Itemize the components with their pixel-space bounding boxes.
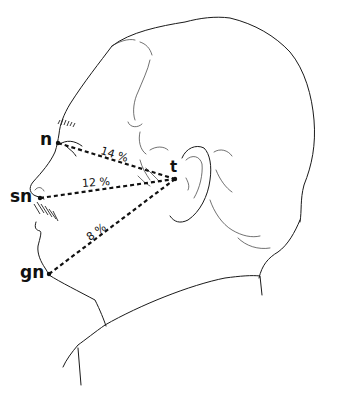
head-profile-illustration	[0, 0, 340, 397]
skull-outline	[112, 17, 315, 222]
landmark-sn-point	[38, 196, 42, 200]
mustache	[34, 202, 58, 221]
lapel-line	[78, 348, 81, 385]
landmark-gn-point	[47, 272, 51, 276]
landmark-label-gn: gn	[20, 264, 44, 281]
sideburn	[138, 160, 160, 186]
nape-outline	[259, 220, 300, 278]
landmark-t-point	[173, 177, 177, 181]
landmark-label-sn: sn	[10, 188, 32, 205]
landmark-n-point	[56, 141, 60, 145]
shoulder-outline	[63, 325, 105, 367]
measure-label-sn-t: 12 %	[82, 176, 111, 189]
ear-inner	[186, 157, 202, 198]
hair-strands	[112, 39, 168, 154]
collar-outline	[105, 276, 262, 325]
landmark-label-n: n	[40, 131, 52, 148]
nostril	[35, 187, 44, 191]
landmark-label-t: t	[170, 160, 177, 175]
hair-behind-ear	[210, 150, 270, 249]
